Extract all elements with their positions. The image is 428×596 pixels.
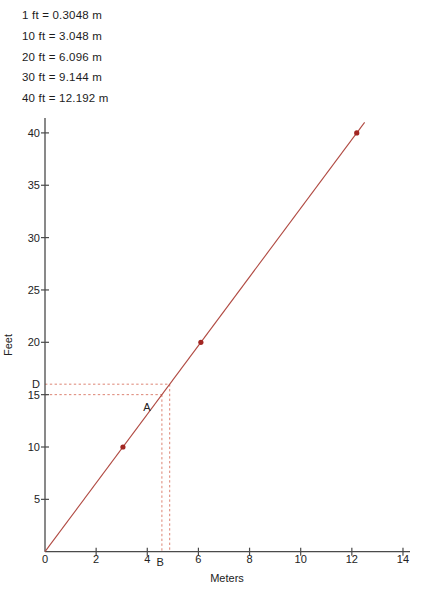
annotation-label-b: B: [156, 556, 163, 568]
x-tick-label: 10: [295, 553, 307, 565]
y-tick-label: 25: [28, 284, 40, 296]
conversion-line-series: [45, 122, 365, 551]
x-axis-title: Meters: [210, 572, 244, 584]
x-tick-label: 6: [195, 553, 201, 565]
x-tick-label: 12: [346, 553, 358, 565]
feet-meters-chart: D51015202530354002468101214FeetMetersAB: [0, 0, 428, 596]
x-tick-label: 0: [42, 553, 48, 565]
y-axis-title: Feet: [2, 334, 14, 356]
x-tick-label: 14: [397, 553, 409, 565]
x-tick-label: 8: [246, 553, 252, 565]
y-tick-label: 40: [28, 127, 40, 139]
y-tick-label: 35: [28, 179, 40, 191]
data-point: [354, 130, 359, 135]
data-point: [198, 340, 203, 345]
y-tick-label: 20: [28, 336, 40, 348]
y-tick-label: 10: [28, 441, 40, 453]
y-tick-label: 5: [34, 493, 40, 505]
data-point: [120, 444, 125, 449]
x-tick-label: 4: [144, 553, 150, 565]
x-tick-label: 2: [93, 553, 99, 565]
y-tick-label: 30: [28, 232, 40, 244]
y-tick-label: 15: [28, 389, 40, 401]
annotation-label-a: A: [143, 401, 151, 413]
worksheet-page: 1 ft = 0.3048 m 10 ft = 3.048 m 20 ft = …: [0, 0, 428, 596]
